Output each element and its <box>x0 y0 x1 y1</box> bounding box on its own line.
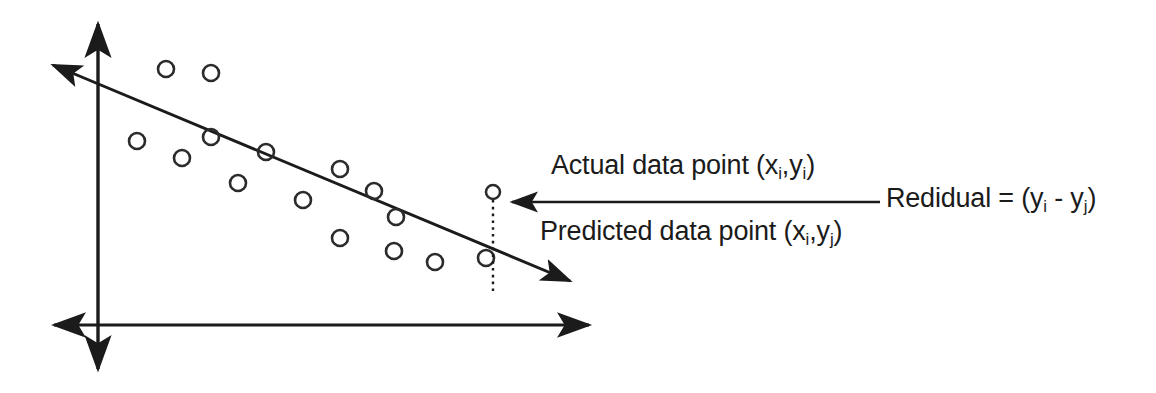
actual-label-prefix: Actual data point (x <box>551 150 778 180</box>
data-point-marker <box>295 192 311 208</box>
predicted-label-sub2: j <box>830 230 834 249</box>
actual-data-point-label: Actual data point (xi,yi) <box>551 152 815 179</box>
predicted-data-point-label: Predicted data point (xi,yj) <box>540 218 842 245</box>
residual-formula-label: Redidual = (yi - yj) <box>886 185 1096 212</box>
data-point-marker <box>332 161 348 177</box>
data-point-marker <box>366 183 382 199</box>
actual-label-sub2: i <box>802 164 806 183</box>
actual-label-sub1: i <box>778 164 782 183</box>
data-point-marker <box>129 133 145 149</box>
data-point-marker <box>386 243 402 259</box>
data-point-marker <box>230 175 246 191</box>
axes-group <box>54 24 589 369</box>
residual-label-prefix: Redidual = (y <box>886 183 1043 213</box>
residual-label-sub1: i <box>1043 197 1047 216</box>
data-point-marker <box>427 254 443 270</box>
data-point-marker <box>478 250 494 266</box>
predicted-label-mid: ,y <box>809 216 830 246</box>
scatter-points-group <box>129 61 494 270</box>
data-point-marker <box>158 61 174 77</box>
data-point-marker <box>388 209 404 225</box>
actual-data-point-marker <box>486 185 500 199</box>
residual-label-suffix: ) <box>1087 183 1096 213</box>
data-point-marker <box>332 230 348 246</box>
residual-label-sub2: j <box>1084 197 1088 216</box>
data-point-marker <box>174 150 190 166</box>
predicted-label-sub1: i <box>806 230 810 249</box>
actual-label-mid: ,y <box>782 150 803 180</box>
predicted-label-prefix: Predicted data point (x <box>540 216 806 246</box>
residual-label-mid: - y <box>1047 183 1084 213</box>
predicted-label-suffix: ) <box>834 216 843 246</box>
residual-diagram: Actual data point (xi,yi) Predicted data… <box>0 0 1156 393</box>
data-point-marker <box>203 65 219 81</box>
actual-label-suffix: ) <box>806 150 815 180</box>
